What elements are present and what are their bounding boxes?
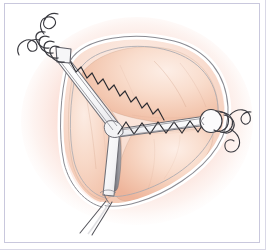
figure-root: Tri-radiate tissue incision with running… [0,0,266,250]
illustration-canvas: Tri-radiate tissue incision with running… [4,3,260,243]
surgical-illustration-svg: Tri-radiate tissue incision with running… [4,3,260,243]
suture-knot-upper-left [18,13,71,63]
suture-tails-upper-left [18,13,58,55]
